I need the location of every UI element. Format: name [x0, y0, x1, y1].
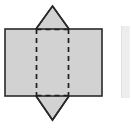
page-edge-strip: [121, 26, 130, 98]
geometry-figure-canvas: [0, 0, 131, 128]
rectangle-shape: [5, 29, 102, 96]
geometry-diagram: [0, 0, 131, 128]
